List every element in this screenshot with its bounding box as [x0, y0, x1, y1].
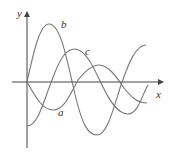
x-axis-label: x [155, 88, 161, 100]
curve-b [27, 24, 146, 135]
y-axis-label: y [16, 7, 22, 19]
curve-a [27, 65, 147, 110]
curve-c [27, 49, 148, 126]
curve-b-label: b [61, 18, 67, 30]
graph: y x b c a [0, 0, 169, 156]
curve-c-label: c [85, 45, 90, 57]
curve-a-label: a [58, 106, 64, 118]
